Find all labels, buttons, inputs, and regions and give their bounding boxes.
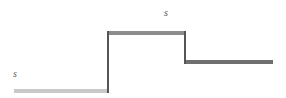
riser-left (107, 31, 109, 93)
step-label-lower: s (13, 69, 17, 79)
tread-lower-step (14, 89, 108, 93)
step-diagram-figure: s s (0, 0, 286, 98)
tread-middle-step (107, 31, 186, 35)
riser-right (184, 31, 186, 64)
step-label-upper: s (164, 8, 168, 18)
tread-upper-step (186, 60, 273, 64)
